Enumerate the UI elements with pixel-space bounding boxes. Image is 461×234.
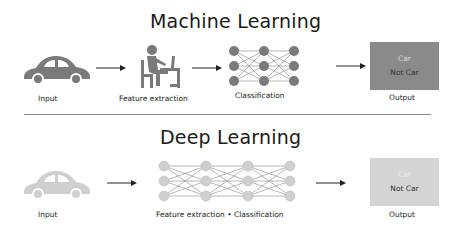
arrow-right-icon: [192, 64, 222, 72]
person-at-desk-icon: [136, 44, 182, 90]
ml-classification-label: Classification: [235, 91, 285, 100]
output-car-label: Car: [398, 168, 411, 182]
ml-feature-extraction-label: Feature extraction: [119, 94, 188, 103]
dl-feature-classification-label: Feature extraction • Classification: [156, 210, 284, 219]
arrow-right-icon: [107, 179, 137, 187]
ml-output-label: Output: [389, 93, 415, 102]
machine-learning-title: Machine Learning: [150, 10, 321, 32]
output-car-label: Car: [398, 52, 411, 66]
neural-network-icon: [228, 46, 300, 86]
car-icon: [20, 168, 92, 200]
ml-output-box: Car Not Car: [370, 42, 439, 90]
arrow-right-icon: [96, 64, 126, 72]
neural-network-icon: [158, 161, 298, 201]
output-not-car-label: Not Car: [390, 66, 418, 80]
dl-input-label: Input: [38, 210, 57, 219]
arrow-right-icon: [316, 179, 346, 187]
dl-output-box: Car Not Car: [370, 158, 439, 206]
arrow-right-icon: [336, 62, 366, 70]
section-divider: [24, 114, 431, 115]
output-not-car-label: Not Car: [390, 182, 418, 196]
deep-learning-title: Deep Learning: [160, 126, 301, 148]
car-icon: [20, 53, 92, 85]
ml-input-label: Input: [38, 94, 57, 103]
dl-output-label: Output: [389, 210, 415, 219]
